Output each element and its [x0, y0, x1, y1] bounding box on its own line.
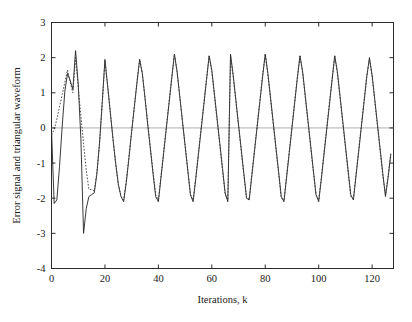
plot-frame — [52, 23, 394, 269]
x-tick-label: 100 — [311, 273, 327, 284]
x-axis-tick-labels: 020406080100120 — [49, 273, 380, 284]
series-path-1 — [52, 54, 391, 200]
y-tick-label: -2 — [37, 193, 46, 204]
y-tick-label: 2 — [40, 52, 45, 63]
y-axis-label: Error signal and triangular waveform — [11, 67, 22, 223]
y-tick-label: -1 — [37, 158, 46, 169]
x-tick-label: 60 — [207, 273, 218, 284]
y-tick-label: -3 — [37, 228, 46, 239]
x-tick-label: 0 — [49, 273, 54, 284]
x-tick-label: 40 — [153, 273, 164, 284]
x-tick-label: 20 — [100, 273, 111, 284]
y-axis-ticks — [52, 23, 394, 269]
data-series-group — [52, 51, 391, 234]
y-axis-tick-labels: -4-3-2-10123 — [37, 17, 46, 274]
x-tick-label: 80 — [260, 273, 271, 284]
y-tick-label: 1 — [40, 87, 45, 98]
y-tick-label: 3 — [40, 17, 45, 28]
x-tick-label: 120 — [364, 273, 380, 284]
chart-svg: 020406080100120 -4-3-2-10123 Iterations,… — [0, 0, 412, 322]
chart-figure: 020406080100120 -4-3-2-10123 Iterations,… — [0, 0, 412, 322]
y-tick-label: -4 — [37, 263, 46, 274]
plot-border — [52, 23, 394, 269]
x-axis-label: Iterations, k — [197, 294, 248, 305]
series-path-0 — [52, 51, 391, 234]
y-tick-label: 0 — [40, 122, 45, 133]
